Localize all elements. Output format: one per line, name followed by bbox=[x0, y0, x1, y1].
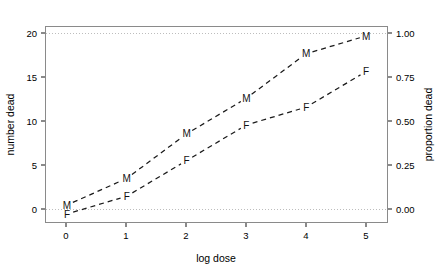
data-point-label-F-3: F bbox=[243, 120, 249, 131]
y-axis-title: number dead bbox=[4, 93, 16, 155]
series-segment-M bbox=[252, 58, 301, 95]
right-axis-ticks bbox=[388, 33, 393, 209]
y2-axis-title: proportion dead bbox=[422, 88, 434, 162]
ytick-label-20: 20 bbox=[26, 28, 37, 39]
y2tick-label-050: 0.50 bbox=[396, 116, 415, 127]
y2tick-label-100: 1.00 bbox=[396, 28, 415, 39]
ytick-label-10: 10 bbox=[26, 116, 37, 127]
data-point-label-F-4: F bbox=[303, 102, 309, 113]
series-segment-M bbox=[132, 138, 181, 175]
xtick-label-3: 3 bbox=[243, 230, 248, 241]
series-segment-F bbox=[73, 198, 120, 212]
left-axis-ticks bbox=[41, 33, 46, 209]
xtick-label-4: 4 bbox=[303, 230, 308, 241]
ytick-label-15: 15 bbox=[26, 72, 37, 83]
data-point-label-M-5: M bbox=[362, 31, 370, 42]
data-point-label-M-1: M bbox=[123, 173, 131, 184]
data-point-label-F-5: F bbox=[363, 66, 369, 77]
plot-frame bbox=[46, 27, 388, 223]
left-axis-tick-labels: 20 15 10 5 0 bbox=[26, 28, 37, 215]
y2tick-label-075: 0.75 bbox=[396, 72, 415, 83]
series-segment-F bbox=[192, 128, 241, 157]
series-point-markers: MMMMMMFFFFFF bbox=[63, 31, 370, 220]
dose-response-plot: 20 15 10 5 0 number dead 1.00 0.75 0.50 … bbox=[0, 0, 441, 272]
data-point-label-F-1: F bbox=[124, 191, 130, 202]
data-point-label-M-2: M bbox=[182, 128, 190, 139]
series-segment-M bbox=[73, 181, 121, 202]
xtick-label-1: 1 bbox=[123, 230, 128, 241]
chart-figure: 20 15 10 5 0 number dead 1.00 0.75 0.50 … bbox=[0, 0, 441, 272]
x-axis-tick-labels: 0 1 2 3 4 5 bbox=[63, 230, 368, 241]
xtick-label-2: 2 bbox=[183, 230, 188, 241]
xtick-label-0: 0 bbox=[63, 230, 68, 241]
series-segment-F bbox=[253, 109, 300, 123]
data-point-label-M-4: M bbox=[302, 48, 310, 59]
data-point-label-F-0: F bbox=[64, 209, 70, 220]
series-segment-F bbox=[312, 75, 361, 104]
series-segment-M bbox=[192, 102, 241, 131]
x-axis-title: log dose bbox=[196, 252, 236, 264]
data-point-label-F-2: F bbox=[184, 155, 190, 166]
gridlines bbox=[46, 33, 387, 209]
right-axis-tick-labels: 1.00 0.75 0.50 0.25 0.00 bbox=[396, 28, 415, 215]
x-axis-ticks bbox=[66, 223, 366, 228]
y2tick-label-025: 0.25 bbox=[396, 160, 415, 171]
series-segment-M bbox=[312, 38, 359, 52]
series-lines bbox=[73, 38, 361, 212]
ytick-label-0: 0 bbox=[32, 204, 37, 215]
y2tick-label-000: 0.00 bbox=[396, 204, 415, 215]
ytick-label-5: 5 bbox=[32, 160, 37, 171]
xtick-label-5: 5 bbox=[363, 230, 368, 241]
data-point-label-M-3: M bbox=[242, 93, 250, 104]
